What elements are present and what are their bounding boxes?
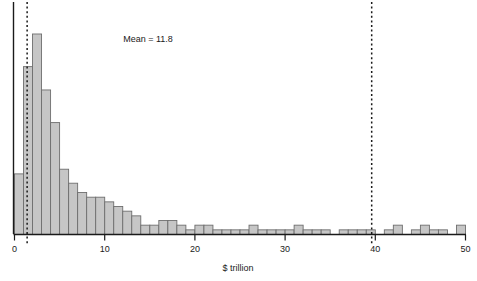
x-axis-title: $ trillion bbox=[222, 263, 253, 273]
x-axis-tick-label: 50 bbox=[460, 244, 470, 254]
histogram-bar bbox=[60, 169, 69, 234]
histogram-bar bbox=[15, 174, 24, 235]
histogram-bar bbox=[168, 221, 177, 235]
histogram-bar bbox=[204, 225, 213, 234]
x-axis-tick-label: 10 bbox=[100, 244, 110, 254]
histogram-bar bbox=[420, 225, 429, 234]
histogram-bar bbox=[78, 193, 87, 235]
mean-annotation-label: Mean = 11.8 bbox=[123, 34, 173, 44]
histogram-bar bbox=[42, 90, 51, 235]
histogram-bar bbox=[33, 34, 42, 235]
histogram-bar bbox=[51, 123, 60, 235]
histogram-bar bbox=[69, 183, 78, 234]
histogram-bar bbox=[132, 216, 141, 235]
histogram-bar bbox=[141, 225, 150, 234]
histogram-bar bbox=[393, 225, 402, 234]
histogram-chart: 01020304050 $ trillion Mean = 11.8 bbox=[0, 0, 477, 281]
histogram-bar bbox=[177, 225, 186, 234]
histogram-bar bbox=[150, 225, 159, 234]
chart-background bbox=[0, 0, 477, 281]
histogram-bar bbox=[114, 207, 123, 235]
chart-canvas: 01020304050 $ trillion Mean = 11.8 bbox=[0, 0, 477, 281]
x-axis-tick-label: 30 bbox=[280, 244, 290, 254]
histogram-bar bbox=[105, 202, 114, 235]
histogram-bar bbox=[96, 197, 105, 234]
histogram-bar bbox=[24, 67, 33, 235]
x-axis-tick-label: 40 bbox=[370, 244, 380, 254]
histogram-bar bbox=[456, 225, 465, 234]
histogram-bar bbox=[159, 221, 168, 235]
histogram-bar bbox=[249, 225, 258, 234]
histogram-bar bbox=[87, 197, 96, 234]
x-axis-tick-label: 0 bbox=[12, 244, 17, 254]
histogram-bar bbox=[195, 225, 204, 234]
histogram-bar bbox=[294, 225, 303, 234]
x-axis-tick-label: 20 bbox=[190, 244, 200, 254]
histogram-bar bbox=[123, 211, 132, 234]
